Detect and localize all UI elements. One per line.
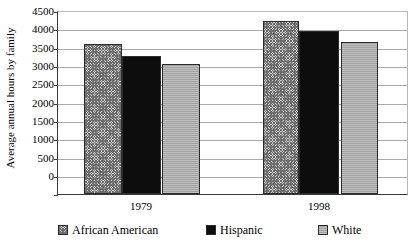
x-tick-label-1979: 1979 [111,200,171,213]
legend-item-african-american[interactable]: African American [58,222,158,238]
y-tick-label: 2000 [18,98,54,109]
y-tick-mark [54,195,58,196]
bar-1979-african-american[interactable] [84,44,122,194]
legend: African American Hispanic White [0,222,414,242]
plot-area [57,11,408,195]
legend-swatch-icon-white [318,225,328,235]
legend-item-hispanic[interactable]: Hispanic [206,222,263,238]
x-tick-label-1998: 1998 [289,200,349,213]
y-tick-label: 1500 [18,116,54,127]
y-tick-label: 1000 [18,134,54,145]
bar-1998-hispanic[interactable] [299,31,339,194]
legend-swatch-icon-hispanic [206,225,216,235]
bars-layer [58,12,407,194]
x-axis-tick-labels: 1979 1998 [57,198,408,216]
y-tick-label: 2500 [18,79,54,90]
y-tick-label: 4000 [18,24,54,35]
y-tick-label: 3500 [18,43,54,54]
legend-label-white: White [332,223,361,237]
y-tick-label: 500 [18,153,54,164]
y-tick-label: 4500 [18,6,54,17]
y-axis-title: Average annual hours by family [3,0,17,198]
y-tick-label: 0 [18,171,54,182]
legend-label-hispanic: Hispanic [220,223,263,237]
legend-label-african-american: African American [72,223,158,237]
bar-1998-african-american[interactable] [263,21,299,194]
y-axis-tick-labels: 4500 4000 3500 3000 2500 2000 1500 1000 … [18,0,54,210]
bar-1979-hispanic[interactable] [122,56,161,194]
bar-1998-white[interactable] [341,42,378,195]
legend-item-white[interactable]: White [318,222,361,238]
bar-chart: Average annual hours by family 4500 4000… [0,0,414,245]
bar-1979-white[interactable] [162,64,200,194]
y-tick-label: 3000 [18,61,54,72]
legend-swatch-icon-african-american [58,225,68,235]
